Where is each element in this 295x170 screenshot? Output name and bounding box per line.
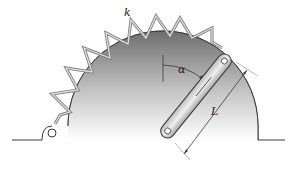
mechanism-diagram <box>0 0 295 170</box>
spring-constant-label: k <box>124 7 131 18</box>
length-label: L <box>211 106 218 117</box>
angle-label: α <box>178 64 185 75</box>
ground-pin <box>48 129 56 137</box>
